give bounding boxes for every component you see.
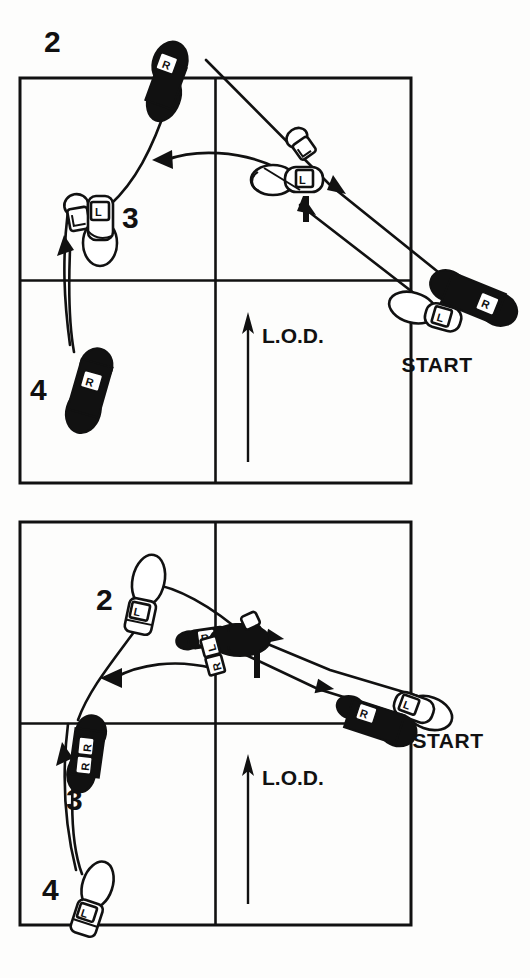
foot-label-l: L — [95, 206, 102, 218]
arc-arrowhead — [152, 150, 173, 169]
lod-indicator-bottom — [242, 754, 254, 904]
path-arrowhead — [314, 679, 335, 698]
step-number-3: 3 — [122, 201, 139, 234]
step-number-4: 4 — [42, 873, 59, 906]
footprint-step-4: R — [61, 344, 118, 437]
start-label-bottom: START — [413, 729, 484, 752]
foot-label-r: R — [79, 762, 92, 771]
footprint-start-top: L R — [385, 265, 523, 336]
step-number-1-bar — [303, 196, 309, 222]
dance-step-diagram-page: R 2 L 1 — [0, 0, 530, 978]
path-arrowhead — [327, 175, 346, 194]
foot-label-l: L — [299, 174, 306, 186]
step-number-4: 4 — [30, 373, 47, 406]
lod-label-bottom: L.O.D. — [262, 766, 324, 789]
lower-step-diagram: L 2 R — [0, 492, 530, 978]
footprint-step-2: R — [141, 37, 194, 127]
step-number-1-bar — [254, 652, 260, 678]
down-arrowhead — [57, 235, 74, 256]
step-number-2: 2 — [44, 25, 61, 58]
start-label-top: START — [402, 353, 473, 376]
step-number-2: 2 — [96, 583, 113, 616]
step-number-3: 3 — [66, 783, 83, 816]
lod-label-top: L.O.D. — [262, 324, 324, 347]
foot-label-r2: R — [81, 743, 94, 752]
lod-indicator-top — [242, 312, 254, 462]
arc-arrowhead — [100, 668, 122, 688]
footprint-step-2: L — [122, 552, 170, 637]
footprint-step-1: L — [251, 124, 323, 195]
upper-step-diagram: R 2 L 1 — [0, 0, 530, 492]
